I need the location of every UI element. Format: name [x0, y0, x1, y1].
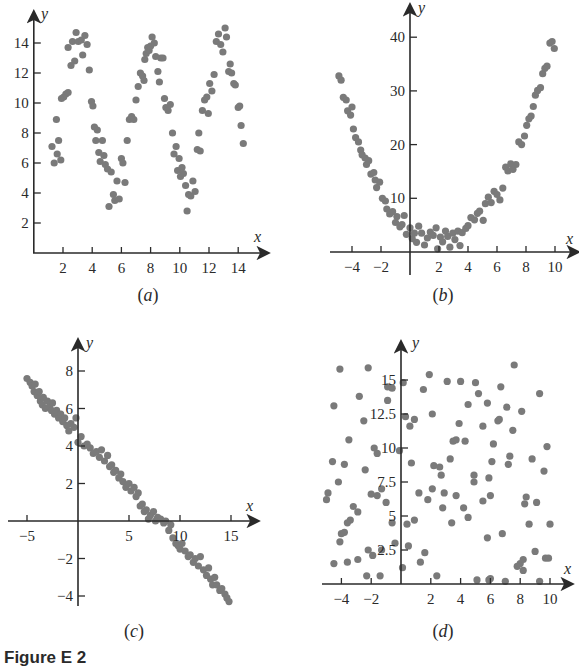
x-axis-label-a: x [253, 228, 261, 245]
data-point [403, 521, 410, 528]
data-point [551, 45, 558, 52]
data-point [546, 521, 553, 528]
y-tick-label: 30 [390, 83, 405, 99]
x-tick-label: 10 [173, 528, 188, 544]
data-point [223, 33, 230, 40]
y-tick-label: 10 [381, 440, 396, 456]
data-point [48, 143, 55, 150]
panel-a: 24681012142468101214 y x (a) [14, 5, 268, 306]
y-tick-label: 40 [390, 29, 405, 45]
data-point [436, 463, 443, 470]
data-point [529, 455, 536, 462]
data-point [110, 191, 117, 198]
data-point [433, 572, 440, 579]
data-point [384, 397, 391, 404]
x-tick-label: 8 [147, 260, 155, 276]
data-point [424, 496, 431, 503]
data-point [365, 157, 372, 164]
data-point [356, 393, 363, 400]
data-point [104, 452, 111, 459]
data-point [32, 381, 39, 388]
y-tick-label: 2 [66, 476, 74, 492]
y-tick-label: −4 [57, 588, 73, 604]
data-point [94, 126, 101, 133]
data-point [411, 416, 418, 423]
data-point [360, 417, 367, 424]
data-point [71, 57, 78, 64]
data-point [132, 96, 139, 103]
data-point [176, 155, 183, 162]
data-point [365, 364, 372, 371]
data-point [484, 534, 491, 541]
data-point [518, 141, 525, 148]
data-point [471, 216, 478, 223]
y-tick-label: 2 [21, 215, 29, 231]
panel-c: −551015−4−22468 y x (c) [8, 334, 258, 642]
x-tick-label: 6 [493, 259, 501, 275]
data-point [215, 30, 222, 37]
data-point [195, 129, 202, 136]
data-point [413, 239, 420, 246]
data-point [457, 378, 464, 385]
panel-b: −4−224681010203040 y x (b) [330, 0, 578, 306]
x-tick-label: 14 [231, 260, 247, 276]
data-point [543, 443, 550, 450]
data-point [470, 478, 477, 485]
figure-caption: Figure E 2 [4, 648, 86, 668]
y-tick-label: 4 [21, 185, 29, 201]
data-point [543, 63, 550, 70]
data-point [108, 168, 115, 175]
data-point [197, 147, 204, 154]
panel-label-a: (a) [138, 285, 159, 306]
data-point [98, 446, 105, 453]
y-axis-label-c: y [84, 334, 94, 352]
data-point [497, 383, 504, 390]
data-point [151, 39, 158, 46]
data-point [447, 455, 454, 462]
data-point [363, 572, 370, 579]
data-point [417, 559, 424, 566]
x-tick-label: 4 [464, 259, 472, 275]
y-tick-label: 7.5 [377, 474, 396, 490]
data-point [496, 416, 503, 423]
panel-label-b: (b) [433, 285, 454, 306]
x-axis-label-c: x [245, 497, 253, 514]
data-point [376, 179, 383, 186]
data-point [365, 546, 372, 553]
data-point [456, 420, 463, 427]
data-point [521, 500, 528, 507]
y-axis-label-d: y [410, 334, 420, 352]
data-point [336, 538, 343, 545]
x-tick-label: 15 [224, 528, 239, 544]
data-point [169, 129, 176, 136]
data-point [509, 427, 516, 434]
data-point [173, 143, 180, 150]
x-tick-label: 10 [548, 259, 563, 275]
data-point [487, 492, 494, 499]
data-point [470, 472, 477, 479]
data-point [444, 378, 451, 385]
data-point [536, 390, 543, 397]
data-point [473, 576, 480, 583]
data-point [119, 159, 126, 166]
data-point [520, 567, 527, 574]
data-point [438, 472, 445, 479]
data-point [206, 80, 213, 87]
data-point [161, 95, 168, 102]
data-point [350, 125, 357, 132]
data-point [426, 371, 433, 378]
data-point [472, 379, 479, 386]
data-point [415, 223, 422, 230]
data-point [441, 489, 448, 496]
data-point [374, 450, 381, 457]
data-point [475, 390, 482, 397]
data-point [411, 230, 418, 237]
x-tick-label: −4 [333, 591, 349, 607]
data-point [485, 474, 492, 481]
data-point [51, 159, 58, 166]
y-tick-label: 15 [381, 372, 396, 388]
data-point [430, 232, 437, 239]
data-point [415, 489, 422, 496]
data-point [401, 212, 408, 219]
data-point [464, 222, 471, 229]
